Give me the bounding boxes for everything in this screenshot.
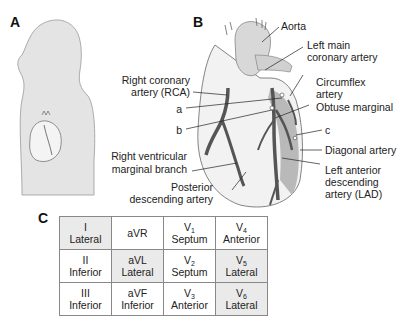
lead-name: II xyxy=(60,254,111,266)
lead-cell: V6Lateral xyxy=(216,283,268,316)
label-a: a xyxy=(176,103,182,115)
label-rca-1: Right coronary xyxy=(122,74,190,86)
label-obtuse-marginal: Obtuse marginal xyxy=(316,101,393,113)
lead-name: V1 xyxy=(164,221,215,233)
lead-name: aVF xyxy=(112,287,163,299)
heart-diagram xyxy=(198,18,303,207)
lead-region: Anterior xyxy=(164,299,215,311)
label-rv-marginal-1: Right ventricular xyxy=(111,150,187,162)
label-lad-2: descending xyxy=(325,176,379,188)
lead-cell: V3Anterior xyxy=(164,283,216,316)
lead-cell: aVFInferior xyxy=(112,283,164,316)
table-row: ILateralaVRV1SeptumV4Anterior xyxy=(60,217,268,250)
label-diagonal-artery: Diagonal artery xyxy=(325,144,396,156)
label-b: b xyxy=(176,124,182,136)
label-c: c xyxy=(325,124,330,136)
label-rca-2: artery (RCA) xyxy=(131,86,190,98)
lead-name: V4 xyxy=(216,221,267,233)
panel-b-label: B xyxy=(193,14,203,30)
lead-name: V2 xyxy=(164,254,215,266)
lead-name: V6 xyxy=(216,287,267,299)
label-circumflex-1: Circumflex xyxy=(316,76,366,88)
lead-cell: IIInferior xyxy=(60,250,112,283)
lead-cell: ILateral xyxy=(60,217,112,250)
label-left-main-1: Left main xyxy=(307,39,350,51)
lead-name: V3 xyxy=(164,287,215,299)
lead-region: Septum xyxy=(164,266,215,278)
lead-region: Lateral xyxy=(216,299,267,311)
label-pda-2: descending artery xyxy=(130,193,213,205)
lead-region: Inferior xyxy=(112,299,163,311)
torso-silhouette xyxy=(18,20,95,195)
label-pda-1: Posterior xyxy=(171,181,213,193)
ecg-lead-table: ILateralaVRV1SeptumV4AnteriorIIInferiora… xyxy=(59,216,268,316)
lead-name: V5 xyxy=(216,254,267,266)
table-row: IIIInferioraVFInferiorV3AnteriorV6Latera… xyxy=(60,283,268,316)
lead-cell: aVLLateral xyxy=(112,250,164,283)
lead-cell: aVR xyxy=(112,217,164,250)
lead-name: aVR xyxy=(112,227,163,239)
lead-name: aVL xyxy=(112,254,163,266)
table-row: IIInferioraVLLateralV2SeptumV5Lateral xyxy=(60,250,268,283)
lead-cell: V1Septum xyxy=(164,217,216,250)
lead-name: III xyxy=(60,287,111,299)
lead-region: Lateral xyxy=(216,266,267,278)
lead-cell: V4Anterior xyxy=(216,217,268,250)
lead-region: Inferior xyxy=(60,299,111,311)
lead-region: Lateral xyxy=(60,233,111,245)
lead-region: Lateral xyxy=(112,266,163,278)
label-lad-1: Left anterior xyxy=(325,164,381,176)
lead-region: Septum xyxy=(164,233,215,245)
lead-cell: IIIInferior xyxy=(60,283,112,316)
label-circumflex-2: artery xyxy=(316,88,343,100)
label-aorta: Aorta xyxy=(281,20,306,32)
panel-c-label: C xyxy=(38,210,48,226)
lead-region: Anterior xyxy=(216,233,267,245)
lead-cell: V5Lateral xyxy=(216,250,268,283)
lead-cell: V2Septum xyxy=(164,250,216,283)
lead-name: I xyxy=(60,221,111,233)
label-rv-marginal-2: marginal branch xyxy=(112,163,187,175)
lead-region: Inferior xyxy=(60,266,111,278)
label-left-main-2: coronary artery xyxy=(307,51,378,63)
label-lad-3: artery (LAD) xyxy=(325,188,382,200)
